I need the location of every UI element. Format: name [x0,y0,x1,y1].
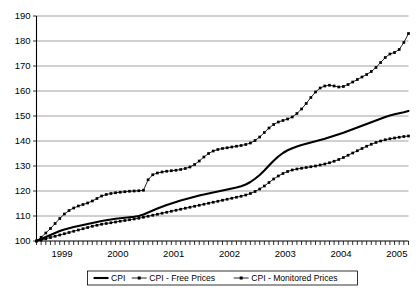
series-marker [356,78,359,81]
y-axis-tick-label: 150 [15,110,31,121]
series-marker [217,200,220,203]
series-marker [147,178,150,181]
series-marker [258,188,261,191]
series-marker [207,202,210,205]
series-marker [72,207,75,210]
series-marker [268,181,271,184]
series-marker [128,218,131,221]
y-axis-tick-label: 110 [15,210,30,221]
series-marker [44,232,47,235]
series-marker [323,85,326,88]
series-marker [314,91,317,94]
series-marker [58,234,61,237]
y-axis-tick-label: 100 [15,235,31,246]
series-marker [49,227,52,230]
series-marker [296,112,299,115]
series-marker [96,224,99,227]
series-marker [305,102,308,105]
series-marker [77,229,80,232]
series-marker [310,165,313,168]
y-axis-tick-label: 140 [15,135,31,146]
x-axis-tick-label: 2001 [163,248,184,259]
series-marker [342,156,345,159]
series-marker [249,142,252,145]
series-marker [384,138,387,141]
series-marker [403,41,406,44]
series-marker [263,185,266,188]
series-marker [156,213,159,216]
x-axis-tick-label: 1999 [52,248,73,259]
series-marker [133,190,136,193]
chart-legend: CPICPI - Free PricesCPI - Monitored Pric… [88,271,358,285]
series-marker [282,119,285,122]
series-marker [156,172,159,175]
series-marker [91,225,94,228]
series-marker [77,205,80,208]
series-marker [170,169,173,172]
series-marker [189,206,192,209]
series-marker [119,220,122,223]
series-marker [230,197,233,200]
series-marker [407,135,410,138]
series-marker [407,32,410,35]
series-marker [179,168,182,171]
chart-container: 100110120130140150160170180190 199920002… [0,0,419,292]
series-marker [282,172,285,175]
y-axis-tick-label: 170 [15,60,31,71]
series-marker [351,152,354,155]
series-marker [63,213,66,216]
series-marker [40,236,43,239]
x-axis-tick-marks [37,241,409,245]
series-marker [151,214,154,217]
series-marker [342,85,345,88]
series-marker [137,217,140,220]
y-axis-tick-label: 190 [15,10,31,21]
series-marker [393,51,396,54]
legend-marker-sample [138,277,141,280]
series-marker [244,194,247,197]
series-marker [398,136,401,139]
series-marker [347,154,350,157]
series-marker [184,207,187,210]
series-marker [44,237,47,240]
series-marker [305,166,308,169]
series-marker [203,156,206,159]
series-marker [114,221,117,224]
series-marker [296,168,299,171]
series-marker [277,121,280,124]
series-marker [68,231,71,234]
series-marker [193,163,196,166]
series-marker [217,148,220,151]
series-marker [105,222,108,225]
series-marker [300,108,303,111]
series-marker [91,200,94,203]
series-marker [254,190,257,193]
series-marker [240,195,243,198]
series-marker [133,218,136,221]
series-marker [68,209,71,212]
series-marker [393,137,396,140]
series-marker [319,87,322,90]
series-marker [361,76,364,79]
legend-marker-sample [240,277,243,280]
legend-label: CPI - Free Prices [149,273,215,283]
y-axis-tick-label: 180 [15,35,31,46]
series-marker [230,146,233,149]
series-marker [165,170,168,173]
series-marker [124,219,127,222]
x-axis-tick-label: 2000 [107,248,128,259]
series-marker [272,178,275,181]
series-marker [72,230,75,233]
series-marker [226,146,229,149]
series-marker [263,131,266,134]
series-marker [356,149,359,152]
series-marker [179,208,182,211]
series-marker [333,85,336,88]
series-marker [337,86,340,89]
series-marker [277,175,280,178]
series-marker [379,140,382,143]
series-marker [268,127,271,130]
series-marker [291,116,294,119]
series-marker [82,203,85,206]
series-marker [272,123,275,126]
